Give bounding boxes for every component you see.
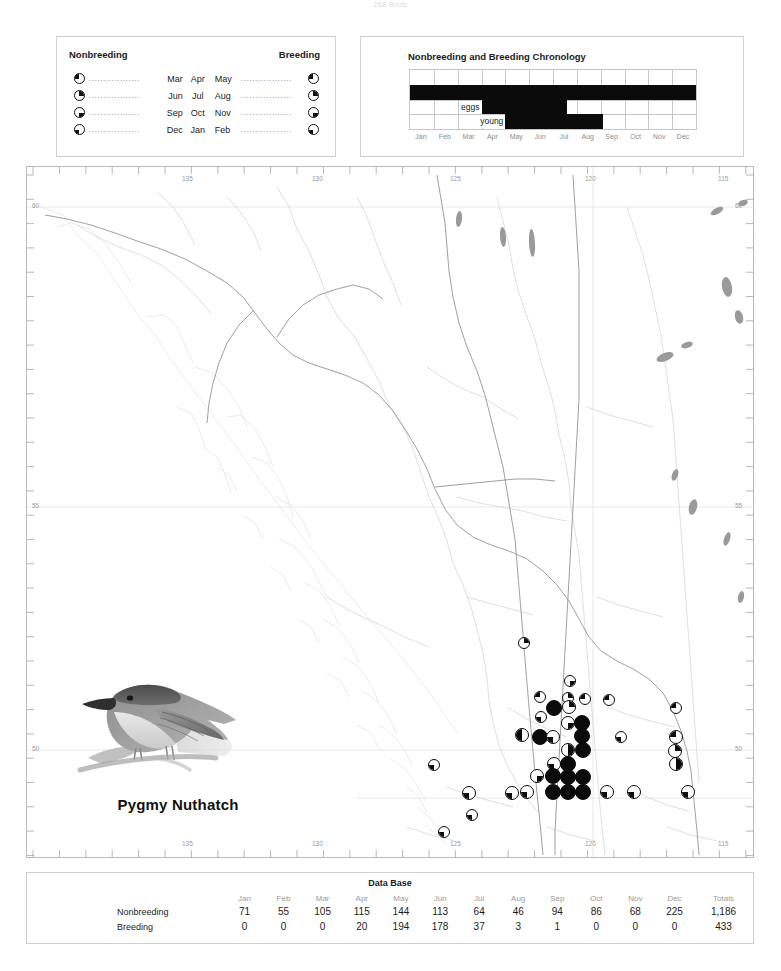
season-pie-sw-icon — [308, 124, 319, 135]
table-cell-value: 194 — [381, 919, 420, 934]
table-cell-value: 94 — [538, 904, 577, 919]
legend-symbol-left — [57, 90, 89, 101]
database-table-body: Nonbreeding71551051151441136446948668225… — [27, 904, 753, 934]
chronology-panel: Nonbreeding and Breeding Chronology eggs… — [360, 36, 744, 157]
occurrence-dot-full — [546, 700, 562, 716]
legend-month-breeding: May — [213, 74, 241, 84]
table-cell-value: 20 — [342, 919, 381, 934]
occurrence-dot-sw — [546, 730, 560, 744]
table-cell-value: 86 — [577, 904, 616, 919]
occurrence-dot-sw — [535, 711, 547, 723]
legend-rows: ..................MarAprMay.............… — [57, 70, 335, 138]
occurrence-dot-ne — [562, 700, 576, 714]
season-pie-se-icon — [74, 107, 85, 118]
map-longitude-label-bottom: 125 — [450, 840, 461, 847]
map-latitude-label-left: 55 — [32, 502, 39, 509]
map-longitude-label-bottom: 130 — [312, 840, 323, 847]
chronology-month-label: Jul — [552, 133, 576, 140]
chronology-bar-nonbreeding — [410, 85, 696, 100]
legend-leader-dots-left: .................. — [89, 108, 155, 117]
occurrence-dot-nw — [603, 694, 615, 706]
table-cell-total: 433 — [694, 919, 753, 934]
table-cell-value: 46 — [499, 904, 538, 919]
legend-month-middle: Apr — [183, 74, 213, 84]
legend-leader-dots-left: .................. — [89, 74, 155, 83]
legend-month-nonbreeding: Mar — [155, 74, 183, 84]
occurrence-dot-half-l — [515, 728, 529, 742]
legend-symbol-left — [57, 124, 89, 135]
occurrence-dot-sw — [462, 786, 476, 800]
pygmy-nuthatch-illustration — [58, 668, 278, 798]
database-table-head: JanFebMarAprMayJunJulAugSepOctNovDecTota… — [27, 892, 753, 904]
occurrence-dot-sw — [466, 809, 478, 821]
chronology-month-label: Dec — [671, 133, 695, 140]
occurrence-dot-half-r — [669, 757, 683, 771]
occurrence-dot-half-r — [561, 743, 575, 757]
table-cell-value: 113 — [421, 904, 460, 919]
occurrence-dot-nw — [670, 702, 682, 714]
legend-leader-dots-right: .................. — [241, 91, 305, 100]
chronology-label-eggs: eggs — [459, 101, 481, 114]
chronology-month-label: Sep — [600, 133, 624, 140]
map-longitude-label-bottom: 115 — [718, 840, 728, 847]
map-latitude-label-left: 60 — [32, 202, 39, 209]
table-column-header: Feb — [264, 892, 303, 904]
occurrence-dot-ne — [668, 744, 682, 758]
table-column-header: May — [381, 892, 420, 904]
table-cell-value: 0 — [577, 919, 616, 934]
legend-month-nonbreeding: Jun — [155, 91, 183, 101]
map-longitude-label-top: 115 — [718, 175, 728, 182]
table-cell-value: 55 — [264, 904, 303, 919]
legend-leader-dots-right: .................. — [241, 125, 305, 134]
table-column-header: Sep — [538, 892, 577, 904]
chronology-month-label: Mar — [457, 133, 481, 140]
database-table: JanFebMarAprMayJunJulAugSepOctNovDecTota… — [27, 892, 753, 934]
chronology-month-label: Jan — [409, 133, 433, 140]
page-header: 268 Birds — [0, 1, 781, 10]
table-row-label: Nonbreeding — [27, 904, 225, 919]
table-header-row: JanFebMarAprMayJunJulAugSepOctNovDecTota… — [27, 892, 753, 904]
occurrence-dot-full — [560, 784, 576, 800]
map-latitude-label-right: 50 — [735, 745, 742, 752]
table-cell-value: 0 — [655, 919, 694, 934]
table-row-label: Breeding — [27, 919, 225, 934]
legend-month-middle: Jan — [183, 125, 213, 135]
legend-month-nonbreeding: Dec — [155, 125, 183, 135]
chronology-month-label: Aug — [576, 133, 600, 140]
table-cell-value: 64 — [460, 904, 499, 919]
legend-row: ..................DecJanFeb.............… — [57, 121, 335, 138]
season-pie-ne-icon — [308, 90, 319, 101]
chronology-title: Nonbreeding and Breeding Chronology — [408, 51, 586, 62]
table-row: Breeding000201941783731000433 — [27, 919, 753, 934]
occurrence-dot-full — [575, 769, 591, 785]
database-title: Data Base — [27, 878, 753, 888]
legend-month-nonbreeding: Sep — [155, 108, 183, 118]
occurrence-dot-full — [575, 742, 591, 758]
legend-symbol-right — [305, 107, 335, 118]
legend-title-breeding: Breeding — [279, 49, 320, 60]
chronology-bar-young — [505, 114, 603, 129]
legend-leader-dots-left: .................. — [89, 125, 155, 134]
table-column-header-totals: Totals — [694, 892, 753, 904]
table-cell-value: 105 — [303, 904, 342, 919]
map-longitude-label-top: 130 — [312, 175, 323, 182]
map-latitude-label-right: 60 — [735, 202, 742, 209]
occurrence-dot-nw — [669, 730, 683, 744]
table-cell-value: 3 — [499, 919, 538, 934]
table-cell-value: 71 — [225, 904, 264, 919]
chronology-bar-eggs — [482, 100, 568, 115]
table-cell-value: 178 — [421, 919, 460, 934]
occurrence-dot-full — [575, 784, 591, 800]
table-cell-value: 37 — [460, 919, 499, 934]
legend-leader-dots-right: .................. — [241, 108, 305, 117]
map-longitude-label-bottom: 135 — [182, 840, 193, 847]
table-column-header: Jul — [460, 892, 499, 904]
table-cell-value: 0 — [264, 919, 303, 934]
legend-row: ..................JunJulAug.............… — [57, 87, 335, 104]
occurrence-dot-full — [560, 769, 576, 785]
map-longitude-label-top: 135 — [182, 175, 193, 182]
occurrence-dot-sw — [627, 785, 641, 799]
occurrence-dot-sw — [681, 785, 695, 799]
table-column-header: Aug — [499, 892, 538, 904]
page-root: 268 Birds Nonbreeding Breeding .........… — [0, 0, 781, 971]
